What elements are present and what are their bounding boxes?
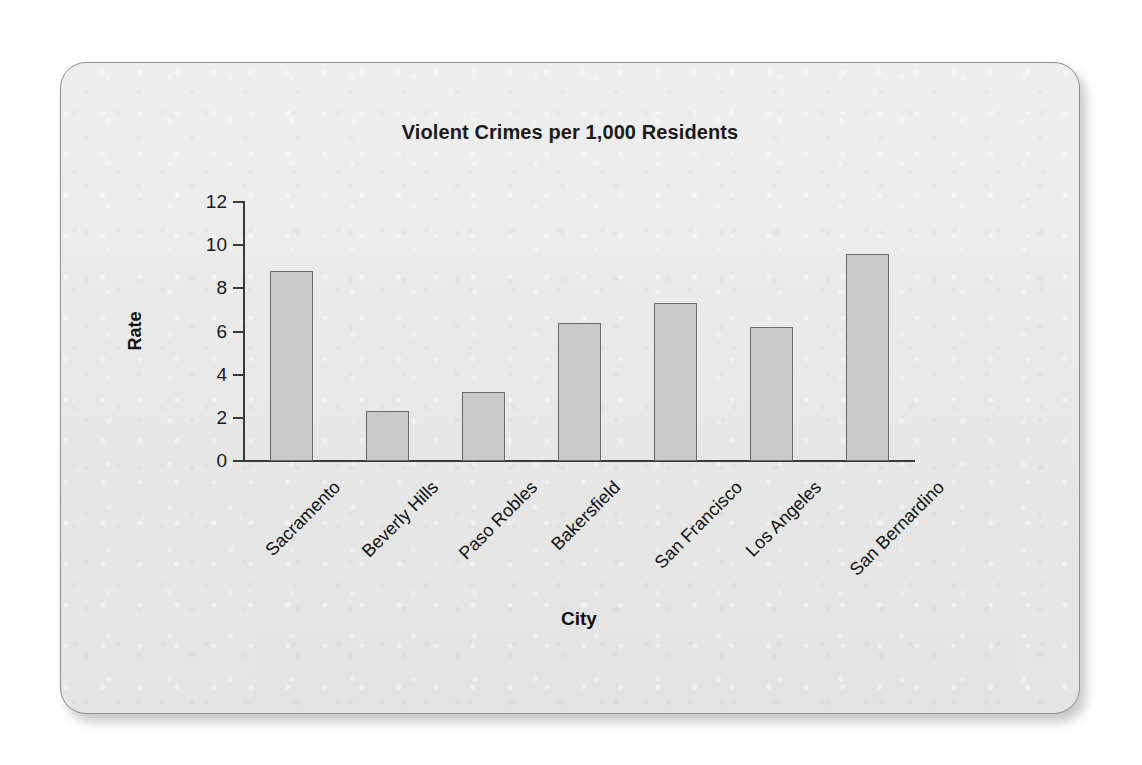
y-axis-tick xyxy=(233,331,243,333)
x-axis-tick-label: Paso Robles xyxy=(455,477,542,564)
bar xyxy=(750,327,793,461)
x-axis-tick-label: Bakersfield xyxy=(547,477,625,555)
bar xyxy=(462,392,505,461)
y-axis-tick-label: 8 xyxy=(175,278,227,297)
y-axis-tick-label: 0 xyxy=(175,451,227,470)
y-axis-tick-label: 4 xyxy=(175,365,227,384)
y-axis-tick-label: 10 xyxy=(175,235,227,254)
y-axis-line xyxy=(243,201,245,462)
x-axis-tick-label: San Francisco xyxy=(651,477,747,573)
x-axis-tick-label: Los Angeles xyxy=(742,477,826,561)
bar xyxy=(558,323,601,461)
bar xyxy=(654,303,697,461)
y-axis-tick-label: 2 xyxy=(175,408,227,427)
x-axis-title: City xyxy=(243,608,915,630)
x-axis-tick-label: Beverly Hills xyxy=(358,477,443,562)
y-axis-tick xyxy=(233,244,243,246)
y-axis-title: Rate xyxy=(125,311,146,350)
bar xyxy=(846,254,889,461)
y-axis-tick-label: 12 xyxy=(175,192,227,211)
y-axis-tick-label: 6 xyxy=(175,322,227,341)
y-axis-tick xyxy=(233,201,243,203)
chart-card: Violent Crimes per 1,000 Residents 02468… xyxy=(60,62,1080,714)
y-axis-tick xyxy=(233,460,243,462)
chart-title: Violent Crimes per 1,000 Residents xyxy=(61,121,1079,144)
x-axis-tick-label: Sacramento xyxy=(261,477,344,560)
x-axis-tick-label: San Bernardino xyxy=(846,477,949,580)
y-axis-tick xyxy=(233,374,243,376)
y-axis-tick xyxy=(233,417,243,419)
y-axis-tick xyxy=(233,287,243,289)
bar xyxy=(366,411,409,461)
bar xyxy=(270,271,313,461)
bar-chart-plot-area: 024681012 Rate SacramentoBeverly HillsPa… xyxy=(61,63,1079,713)
